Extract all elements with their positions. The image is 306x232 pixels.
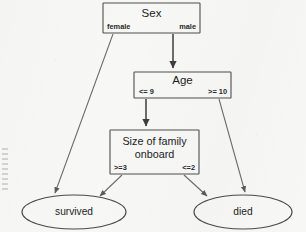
edge-family-small-to-died: [184, 175, 207, 196]
edge-sex-female-to-survived: [55, 34, 113, 193]
node-family-size[interactable]: Size of family onboard >=3 <=2: [110, 130, 199, 174]
node-survived[interactable]: survived: [22, 195, 126, 229]
branch-label-family-gte3: >=3: [114, 163, 127, 172]
decision-tree-diagram: Sex female male Age <= 9 >= 10 Size of f…: [0, 0, 306, 232]
branch-label-female: female: [107, 22, 130, 31]
edge-family-big-to-survived: [100, 175, 122, 196]
node-age-label: Age: [172, 74, 192, 86]
branch-label-age-lte9: <= 9: [139, 87, 154, 96]
branch-label-family-lte2: <=2: [182, 163, 195, 172]
node-sex[interactable]: Sex female male: [103, 3, 200, 33]
diagram-canvas: Sex female male Age <= 9 >= 10 Size of f…: [0, 0, 306, 232]
branch-label-male: male: [179, 22, 196, 31]
margin-scan-artifact: [2, 148, 9, 192]
node-family-size-label-line1: Size of family: [122, 135, 187, 147]
node-survived-label: survived: [55, 206, 93, 217]
node-family-size-label-line2: onboard: [135, 148, 175, 160]
node-died-label: died: [233, 206, 253, 217]
node-sex-label: Sex: [142, 7, 162, 19]
node-died[interactable]: died: [194, 195, 292, 229]
edge-age-old-to-died: [219, 99, 245, 192]
branch-label-age-gte10: >= 10: [208, 87, 227, 96]
node-age[interactable]: Age <= 9 >= 10: [134, 72, 231, 98]
